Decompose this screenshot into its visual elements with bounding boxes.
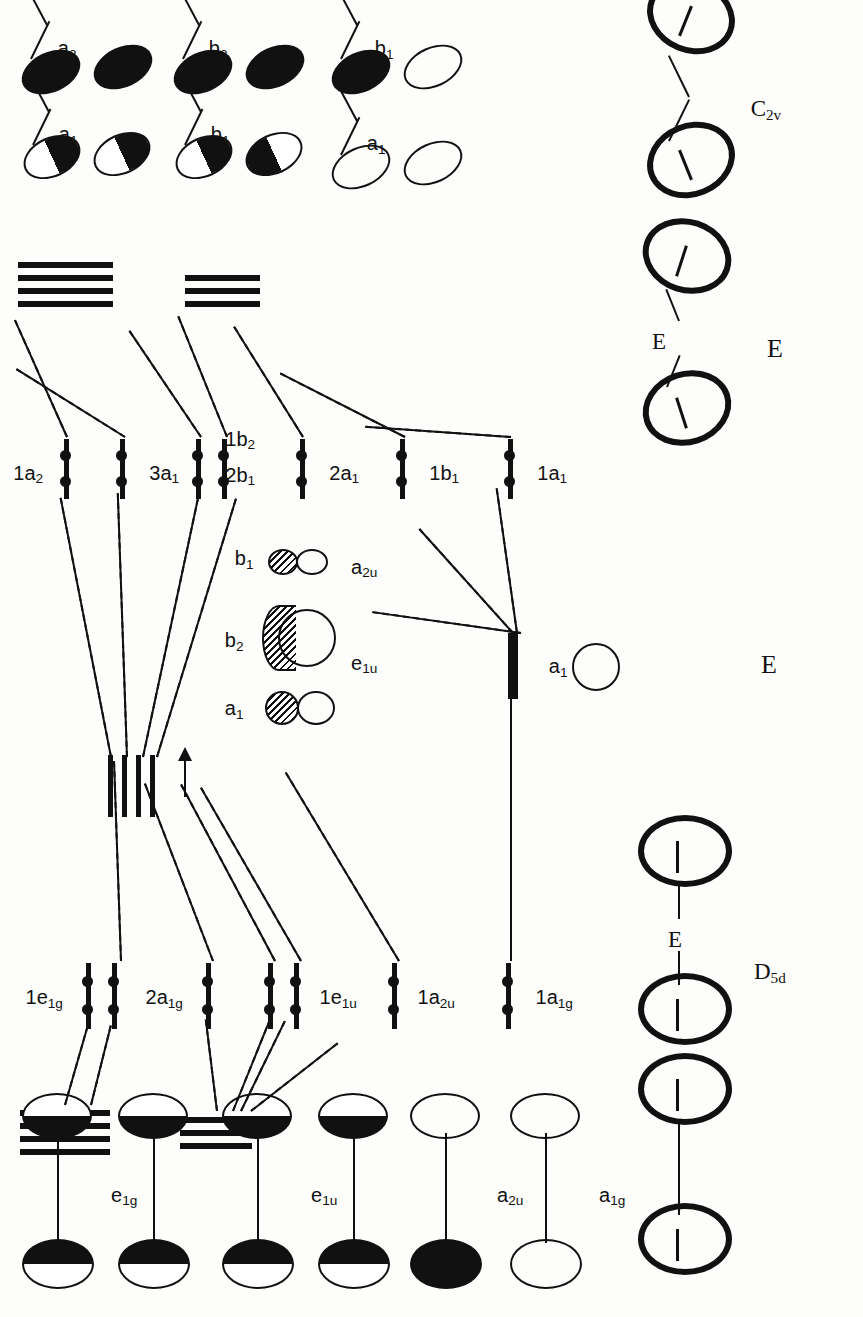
symmetry-label-e-center: E — [767, 334, 783, 364]
fragment-label-e1g: e1g — [111, 1184, 137, 1208]
central-label-a2u: a2u — [351, 556, 377, 580]
symmetry-label-e: E — [761, 650, 777, 680]
structure-e-label-d5d: E — [668, 927, 682, 953]
central-label-b1: b1 — [235, 547, 254, 571]
fragment-label-a1: a1 — [59, 123, 78, 147]
mo-label-1e1u: 1e1u — [320, 986, 357, 1010]
mo-label-1e1g: 1e1g — [26, 986, 63, 1010]
mo-label-1a1: 1a1 — [537, 462, 567, 486]
fragment-label-b2: b2 — [209, 37, 228, 61]
symmetry-label-d5d: D5d — [754, 959, 786, 987]
mo-label-2a1: 2a1 — [329, 462, 359, 486]
mo-label-1a2: 1a2 — [13, 462, 43, 486]
mo-label-1a2u: 1a2u — [418, 986, 455, 1010]
figure-page: a2 a1 b2 b1 — [0, 0, 863, 1317]
mo-label-2b1: 2b1 — [225, 464, 255, 488]
mo-label-3a1: 3a1 — [149, 462, 179, 486]
central-s-orbital — [572, 643, 620, 691]
mo-label-2a1g: 2a1g — [146, 986, 183, 1010]
fragment-label-b1: b1 — [211, 123, 230, 147]
fragment-label-a1g: a1g — [599, 1184, 625, 1208]
central-label-b2: b2 — [225, 629, 244, 653]
central-label-a1: a1 — [225, 697, 244, 721]
mo-label-1a1g: 1a1g — [536, 986, 573, 1010]
mo-label-1b1: 1b1 — [429, 462, 459, 486]
mo-correlation-diagram: a2 a1 b2 b1 — [0, 0, 740, 1317]
mo-label-1b2: 1b2 — [225, 428, 255, 452]
central-label-e1u: e1u — [351, 652, 377, 676]
fragment-label-b1-right2: b1 — [375, 37, 394, 61]
fragment-label-a2u: a2u — [497, 1184, 523, 1208]
symmetry-label-c2v: C2v — [751, 96, 782, 124]
structure-e-label-bent: E — [652, 329, 666, 355]
fragment-label-a2: a2 — [58, 37, 77, 61]
fragment-label-e1u: e1u — [311, 1184, 337, 1208]
central-a1-level — [508, 633, 518, 699]
central-a1-level-label: a1 — [549, 655, 568, 679]
fragment-label-a1-right: a1 — [367, 132, 386, 156]
